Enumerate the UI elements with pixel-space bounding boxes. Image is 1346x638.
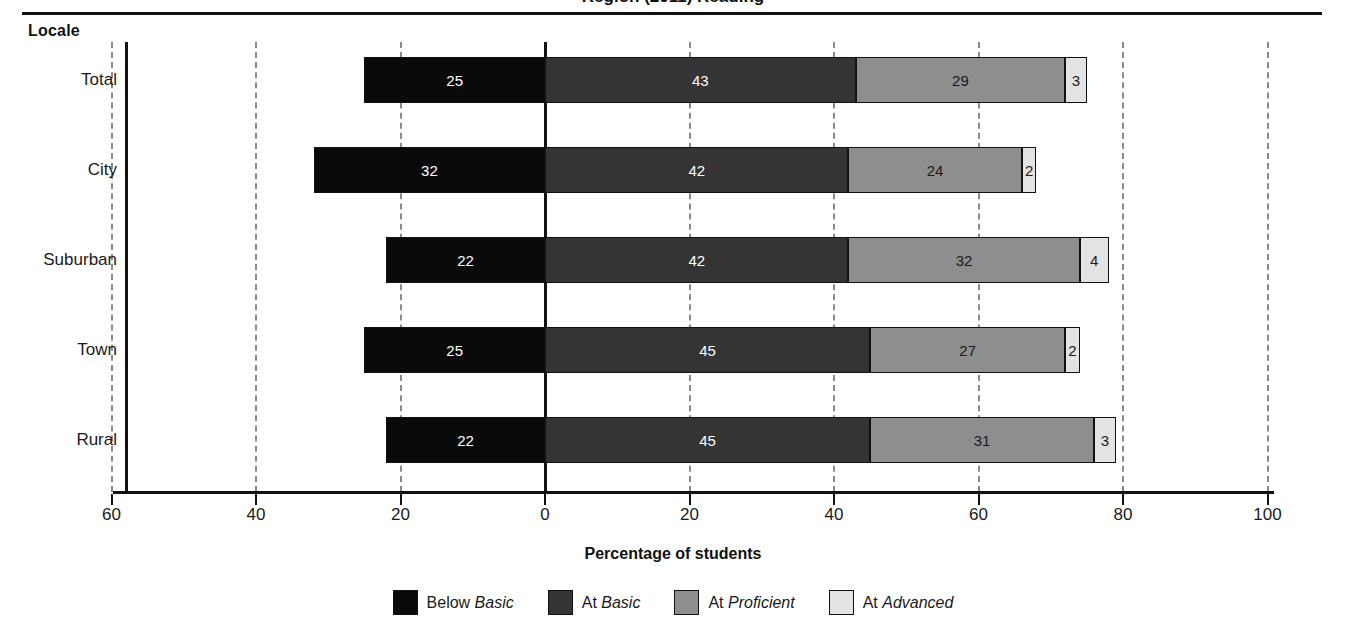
value-axis-line (113, 491, 1274, 494)
category-label-rural: Rural (5, 417, 117, 463)
x-tick-mark-20 (400, 494, 402, 505)
bar-segment-at-proficient-suburban: 32 (848, 237, 1079, 283)
legend-item-at-basic[interactable]: At Basic (548, 590, 641, 615)
x-tick-mark-60 (111, 494, 113, 505)
bar-segment-at-basic-city: 42 (545, 147, 848, 193)
below-basic-swatch (393, 590, 418, 615)
x-tick-mark-100 (1267, 494, 1269, 505)
bar-segment-below-basic-suburban: 22 (386, 237, 545, 283)
x-tick-mark-60 (978, 494, 980, 505)
bar-value-label: 42 (688, 252, 705, 269)
bar-segment-at-advanced-total: 3 (1065, 57, 1087, 103)
bar-value-label: 31 (974, 432, 991, 449)
x-tick-label-60: 60 (949, 505, 1009, 525)
at-basic-swatch (548, 590, 573, 615)
x-tick-label-0: 0 (515, 505, 575, 525)
x-tick-label-80: 80 (1093, 505, 1153, 525)
category-label-town: Town (5, 327, 117, 373)
bar-value-label: 32 (421, 162, 438, 179)
bar-row-suburban: Suburban2242324 (0, 237, 1346, 283)
x-tick-mark-80 (1122, 494, 1124, 505)
bar-value-label: 4 (1090, 252, 1098, 269)
legend-item-below-basic[interactable]: Below Basic (393, 590, 514, 615)
legend-label-at-proficient: At Proficient (708, 594, 794, 612)
x-tick-label-60: 60 (82, 505, 142, 525)
bar-segment-at-proficient-rural: 31 (870, 417, 1094, 463)
bar-value-label: 2 (1025, 162, 1033, 179)
legend-item-at-proficient[interactable]: At Proficient (674, 590, 794, 615)
bar-segment-at-advanced-suburban: 4 (1080, 237, 1109, 283)
x-tick-label-20: 20 (660, 505, 720, 525)
category-axis-header: Locale (28, 22, 80, 40)
bar-value-label: 45 (699, 432, 716, 449)
bar-segment-at-basic-town: 45 (545, 327, 870, 373)
bar-value-label: 2 (1068, 342, 1076, 359)
x-tick-mark-20 (689, 494, 691, 505)
legend-item-at-advanced[interactable]: At Advanced (829, 590, 954, 615)
x-tick-mark-40 (833, 494, 835, 505)
bar-value-label: 22 (457, 432, 474, 449)
bar-segment-at-proficient-city: 24 (848, 147, 1021, 193)
x-tick-mark-0 (544, 494, 546, 505)
bar-value-label: 25 (446, 72, 463, 89)
category-label-total: Total (5, 57, 117, 103)
bar-row-town: Town2545272 (0, 327, 1346, 373)
x-tick-label-40: 40 (226, 505, 286, 525)
chart-legend: Below BasicAt BasicAt ProficientAt Advan… (0, 590, 1346, 615)
at-advanced-swatch (829, 590, 854, 615)
bar-segment-below-basic-rural: 22 (386, 417, 545, 463)
bar-segment-at-proficient-total: 29 (856, 57, 1066, 103)
legend-label-at-advanced: At Advanced (863, 594, 954, 612)
bar-value-label: 32 (956, 252, 973, 269)
bar-row-total: Total2543293 (0, 57, 1346, 103)
bar-value-label: 43 (692, 72, 709, 89)
at-proficient-swatch (674, 590, 699, 615)
bar-segment-below-basic-city: 32 (314, 147, 545, 193)
bar-value-label: 3 (1072, 72, 1080, 89)
bar-segment-at-advanced-town: 2 (1065, 327, 1079, 373)
bar-value-label: 3 (1101, 432, 1109, 449)
bar-segment-at-basic-rural: 45 (545, 417, 870, 463)
bar-value-label: 42 (688, 162, 705, 179)
bar-row-city: City3242242 (0, 147, 1346, 193)
x-tick-label-100: 100 (1238, 505, 1298, 525)
bar-segment-at-basic-suburban: 42 (545, 237, 848, 283)
bar-segment-at-basic-total: 43 (545, 57, 856, 103)
category-label-suburban: Suburban (5, 237, 117, 283)
x-tick-mark-40 (255, 494, 257, 505)
bar-segment-at-advanced-city: 2 (1022, 147, 1036, 193)
x-tick-label-20: 20 (371, 505, 431, 525)
legend-label-below-basic: Below Basic (427, 594, 514, 612)
x-axis-title: Percentage of students (0, 545, 1346, 563)
category-label-city: City (5, 147, 117, 193)
bar-value-label: 29 (952, 72, 969, 89)
bar-segment-at-proficient-town: 27 (870, 327, 1065, 373)
legend-label-at-basic: At Basic (582, 594, 641, 612)
x-tick-label-40: 40 (804, 505, 864, 525)
chart-plot-area: Locale Total2543293City3242242Suburban22… (0, 0, 1346, 638)
bar-segment-below-basic-total: 25 (364, 57, 545, 103)
bar-segment-at-advanced-rural: 3 (1094, 417, 1116, 463)
bar-value-label: 27 (959, 342, 976, 359)
bar-value-label: 25 (446, 342, 463, 359)
bar-value-label: 45 (699, 342, 716, 359)
bar-value-label: 22 (457, 252, 474, 269)
bar-value-label: 24 (927, 162, 944, 179)
bar-segment-below-basic-town: 25 (364, 327, 545, 373)
bar-row-rural: Rural2245313 (0, 417, 1346, 463)
